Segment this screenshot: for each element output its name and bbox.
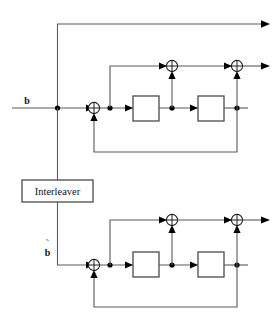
bottom-arrow-to-delay2-icon	[190, 261, 198, 268]
top-mid-feed-arrow-icon	[168, 71, 175, 79]
xor-bottom-out	[231, 214, 242, 225]
xor-bottom-input	[88, 259, 99, 270]
bottom-parity-arrow1-icon	[159, 216, 167, 223]
input-label-b-tilde: b	[45, 247, 51, 258]
top-arrow-to-delay1-icon	[125, 104, 133, 111]
xor-top-input	[88, 102, 99, 113]
delay-bottom-2	[198, 252, 224, 277]
top-feedback-arrow-icon	[90, 113, 97, 121]
xor-top-out	[231, 60, 242, 71]
bottom-encoder	[88, 214, 270, 307]
top-encoder	[12, 60, 270, 152]
schematic-canvas: Interleaver	[0, 0, 278, 319]
parity1-output-arrow-icon	[261, 62, 270, 69]
delay-top-2	[198, 96, 224, 121]
input-label-b-tilde-accent: ˜	[46, 237, 49, 247]
bottom-out-feed-arrow-icon	[233, 225, 240, 233]
interleaver-out-wire	[58, 202, 89, 265]
top-parity-arrow1-icon	[159, 62, 167, 69]
parity2-output-arrow-icon	[261, 216, 270, 223]
input-label-b: b	[24, 95, 30, 106]
xor-top-mid	[166, 60, 177, 71]
top-parity-arrow2-icon	[224, 62, 232, 69]
xor-bottom-mid	[166, 214, 177, 225]
delay-bottom-1	[133, 252, 159, 277]
top-arrow-to-delay2-icon	[190, 104, 198, 111]
turbo-encoder-diagram: Interleaver	[0, 0, 278, 319]
delay-top-1	[133, 96, 159, 121]
systematic-arrow-icon	[261, 20, 270, 28]
bottom-parity-arrow2-icon	[224, 216, 232, 223]
bottom-mid-feed-arrow-icon	[168, 225, 175, 233]
interleaver-branch: Interleaver	[22, 108, 94, 269]
bottom-feedback-arrow-icon	[90, 270, 97, 278]
top-out-feed-arrow-icon	[233, 71, 240, 79]
bottom-arrow-to-delay1-icon	[125, 261, 133, 268]
interleaver-label: Interleaver	[35, 186, 81, 197]
